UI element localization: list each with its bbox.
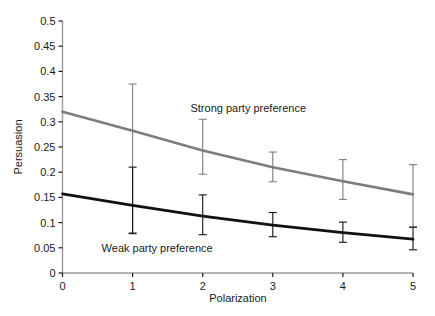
y-tick-label: 0.35	[34, 91, 55, 103]
y-tick-label: 0	[49, 267, 55, 279]
y-tick-label: 0.4	[40, 65, 55, 77]
series-annotation: Weak party preference	[102, 242, 213, 254]
y-axis-title: Persuasion	[12, 119, 24, 174]
x-tick-label: 2	[200, 280, 206, 292]
chart-figure: 00.050.10.150.20.250.30.350.40.450.5 012…	[0, 0, 435, 316]
y-tick-label: 0.25	[34, 141, 55, 153]
chart-background	[0, 0, 435, 316]
y-tick-label: 0.15	[34, 191, 55, 203]
x-tick-label: 1	[130, 280, 136, 292]
series-annotation: Strong party preference	[190, 102, 306, 114]
x-axis-title: Polarization	[209, 292, 266, 304]
y-tick-label: 0.5	[40, 15, 55, 27]
y-tick-label: 0.05	[34, 242, 55, 254]
y-tick-label: 0.3	[40, 116, 55, 128]
y-tick-label: 0.45	[34, 40, 55, 52]
chart-canvas: 00.050.10.150.20.250.30.350.40.450.5 012…	[0, 0, 435, 316]
x-tick-label: 4	[340, 280, 346, 292]
y-tick-label: 0.1	[40, 217, 55, 229]
y-tick-label: 0.2	[40, 166, 55, 178]
x-tick-label: 5	[410, 280, 416, 292]
x-tick-label: 3	[270, 280, 276, 292]
x-tick-label: 0	[59, 280, 65, 292]
